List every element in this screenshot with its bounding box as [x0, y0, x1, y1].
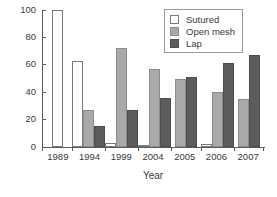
bar-sutured [105, 143, 116, 147]
bar-lap [94, 126, 105, 147]
bar-lap [249, 55, 260, 147]
legend-item: Open mesh [170, 25, 235, 37]
x-tick-label: 2007 [232, 151, 264, 162]
y-tick-label: 80 [25, 31, 36, 42]
legend-item: Sutured [170, 13, 235, 25]
x-axis-title: Year [42, 170, 264, 181]
bar-lap [186, 77, 197, 147]
x-tick-label: 1999 [105, 151, 137, 162]
bar-sutured [138, 145, 149, 147]
bar-openmesh [149, 69, 160, 147]
x-axis-line [42, 147, 265, 148]
x-tick-label: 2006 [201, 151, 233, 162]
y-tick-label: 100 [20, 4, 36, 15]
chart-legend: Sutured Open mesh Lap [164, 9, 243, 53]
bar-openmesh [116, 48, 127, 147]
x-tick-label: 1994 [74, 151, 106, 162]
legend-swatch-lap [170, 39, 179, 48]
y-tick-label: 40 [25, 86, 36, 97]
legend-label-open-mesh: Open mesh [186, 26, 235, 37]
x-tick-label: 2005 [169, 151, 201, 162]
legend-swatch-open-mesh [170, 27, 179, 36]
bar-sutured [201, 144, 212, 147]
bar-sutured [72, 61, 83, 147]
bar-sutured [52, 10, 63, 147]
bar-group [105, 10, 138, 147]
bar-lap [223, 63, 234, 147]
bar-openmesh [212, 92, 223, 147]
bar-chart: Percentage 020406080100 1989199419992004… [0, 0, 277, 197]
y-tick-label: 60 [25, 58, 36, 69]
bar-openmesh [175, 79, 186, 148]
legend-item: Lap [170, 37, 235, 49]
bar-group [42, 10, 72, 147]
bar-group [72, 10, 105, 147]
legend-label-lap: Lap [186, 38, 202, 49]
bar-lap [127, 110, 138, 147]
bar-openmesh [238, 99, 249, 147]
legend-swatch-sutured [170, 15, 179, 24]
y-tick-label: 20 [25, 113, 36, 124]
bar-lap [160, 98, 171, 147]
y-axis-title: Percentage [0, 0, 13, 14]
x-tick-label: 2004 [137, 151, 169, 162]
legend-label-sutured: Sutured [186, 14, 219, 25]
y-tick-label: 0 [31, 141, 36, 152]
bar-openmesh [83, 110, 94, 147]
x-tick-label: 1989 [42, 151, 74, 162]
